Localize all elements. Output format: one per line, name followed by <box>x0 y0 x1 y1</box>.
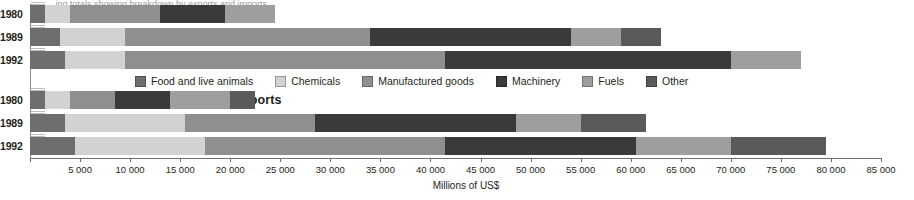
bar-segment-food-and-live-animals <box>30 28 60 46</box>
bar-segment-chemicals <box>45 5 70 23</box>
legend-item-food-and-live-animals[interactable]: Food and live animals <box>135 76 253 87</box>
x-axis-tick <box>531 158 532 162</box>
bar-row-label: 1989 <box>0 28 28 46</box>
legend-label: Chemicals <box>291 76 340 87</box>
x-axis-tick-label: 70 000 <box>716 164 745 175</box>
chart-legend: Food and live animalsChemicalsManufactur… <box>135 74 710 88</box>
chart-figure: ...ing totals showing breakdown by expor… <box>0 0 914 200</box>
legend-label: Machinery <box>512 76 560 87</box>
legend-item-machinery[interactable]: Machinery <box>496 76 560 87</box>
x-axis-tick-label: 40 000 <box>416 164 445 175</box>
bar-segment-other <box>581 114 646 132</box>
x-axis-tick-label: 15 000 <box>166 164 195 175</box>
bar-segment-food-and-live-animals <box>30 91 45 109</box>
bar-segment-manufactured-goods <box>70 91 115 109</box>
bar-row-label: 1989 <box>0 114 28 132</box>
bar-segment-fuels <box>516 114 581 132</box>
x-axis-tick <box>430 158 431 162</box>
x-axis-tick-label: 75 000 <box>766 164 795 175</box>
bar-segment-manufactured-goods <box>70 5 160 23</box>
x-axis-tick-label: 5 000 <box>68 164 92 175</box>
legend-item-other[interactable]: Other <box>646 76 688 87</box>
bar-segment-manufactured-goods <box>185 114 315 132</box>
bar-segment-other <box>230 91 255 109</box>
bar-row-label: 1992 <box>0 137 28 155</box>
legend-label: Fuels <box>598 76 624 87</box>
x-axis-tick-label: 30 000 <box>316 164 345 175</box>
legend-label: Other <box>662 76 688 87</box>
stacked-bar <box>30 28 661 46</box>
bar-segment-other <box>621 28 661 46</box>
x-axis-tick <box>230 158 231 162</box>
legend-item-manufactured-goods[interactable]: Manufactured goods <box>362 76 474 87</box>
legend-label: Food and live animals <box>151 76 253 87</box>
bar-segment-food-and-live-animals <box>30 51 65 69</box>
legend-swatch-icon <box>135 76 146 87</box>
x-axis-tick <box>781 158 782 162</box>
bar-segment-food-and-live-animals <box>30 137 75 155</box>
bar-segment-food-and-live-animals <box>30 5 45 23</box>
x-axis-title: Millions of US$ <box>0 180 914 191</box>
x-axis-tick <box>80 158 81 162</box>
bar-row: 1989 <box>0 28 914 46</box>
bar-segment-machinery <box>445 51 730 69</box>
bar-segment-machinery <box>315 114 515 132</box>
bar-segment-machinery <box>370 28 570 46</box>
bar-row: 1992 <box>0 137 914 155</box>
bar-row: 1980 <box>0 5 914 23</box>
bar-segment-fuels <box>170 91 230 109</box>
bar-segment-other <box>731 137 826 155</box>
x-axis-tick <box>380 158 381 162</box>
stacked-bar <box>30 137 826 155</box>
bar-segment-manufactured-goods <box>125 51 445 69</box>
x-axis-tick <box>631 158 632 162</box>
bar-segment-manufactured-goods <box>205 137 445 155</box>
bar-row: 1992 <box>0 51 914 69</box>
bar-segment-machinery <box>445 137 635 155</box>
bar-segment-machinery <box>115 91 170 109</box>
x-axis-tick-label: 45 000 <box>466 164 495 175</box>
legend-swatch-icon <box>496 76 507 87</box>
x-axis-tick-label: 60 000 <box>616 164 645 175</box>
x-axis-tick <box>881 158 882 162</box>
bar-segment-fuels <box>731 51 801 69</box>
x-axis-tick <box>280 158 281 162</box>
x-axis-tick-label: 65 000 <box>666 164 695 175</box>
bar-row-label: 1992 <box>0 51 28 69</box>
legend-item-fuels[interactable]: Fuels <box>582 76 624 87</box>
x-axis-tick <box>731 158 732 162</box>
bar-segment-fuels <box>571 28 621 46</box>
bar-segment-fuels <box>636 137 731 155</box>
bar-segment-machinery <box>160 5 225 23</box>
legend-label: Manufactured goods <box>378 76 474 87</box>
stacked-bar <box>30 51 801 69</box>
legend-swatch-icon <box>646 76 657 87</box>
legend-item-chemicals[interactable]: Chemicals <box>275 76 340 87</box>
x-axis-tick <box>831 158 832 162</box>
x-axis-tick <box>180 158 181 162</box>
bar-segment-chemicals <box>75 137 205 155</box>
x-axis-tick <box>681 158 682 162</box>
x-axis-tick-label: 80 000 <box>816 164 845 175</box>
stacked-bar <box>30 114 646 132</box>
x-axis-line <box>30 158 881 159</box>
x-axis-title-text: Millions of US$ <box>415 180 500 191</box>
x-axis-tick-label: 55 000 <box>566 164 595 175</box>
bar-segment-chemicals <box>45 91 70 109</box>
bar-segment-chemicals <box>65 51 125 69</box>
x-axis-tick <box>130 158 131 162</box>
bar-row: 1989 <box>0 114 914 132</box>
x-axis-tick <box>481 158 482 162</box>
x-axis-tick <box>30 158 31 162</box>
x-axis-tick <box>581 158 582 162</box>
legend-swatch-icon <box>275 76 286 87</box>
bar-row-label: 1980 <box>0 91 28 109</box>
bar-segment-manufactured-goods <box>125 28 370 46</box>
x-axis-tick-label: 10 000 <box>116 164 145 175</box>
x-axis-tick-label: 50 000 <box>516 164 545 175</box>
bar-segment-chemicals <box>65 114 185 132</box>
stacked-bar <box>30 5 275 23</box>
bar-segment-chemicals <box>60 28 125 46</box>
bar-row-label: 1980 <box>0 5 28 23</box>
legend-swatch-icon <box>582 76 593 87</box>
